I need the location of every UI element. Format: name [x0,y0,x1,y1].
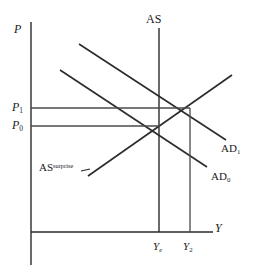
p0-sub: 0 [19,124,23,133]
ad1-curve-label: AD1 [221,143,240,154]
as-surprise-superscript: surprise [53,162,73,169]
ad1-sub: 1 [237,148,240,155]
p1-sub: 1 [19,106,23,115]
output-level-y2-label: Y2 [183,241,193,252]
ad1-base: AD [221,142,237,154]
price-level-p0-label: P0 [12,119,23,131]
as-surprise-pointer-icon [81,169,90,171]
diagram-canvas [0,0,260,278]
ye-sub: e [159,246,162,253]
y2-sub: 2 [189,246,192,253]
x-axis-label: Y [215,222,222,234]
economics-ad-as-diagram: P P1 P0 AS ASsurprise AD1 AD0 Y Ye Y2 [0,0,260,278]
output-level-ye-label: Ye [153,241,162,252]
y-axis-label: P [14,23,21,35]
as-surprise-curve-label: ASsurprise [39,162,73,173]
price-level-p1-label: P1 [12,101,23,113]
ad0-curve-label: AD0 [211,171,230,182]
as-surprise-base: AS [39,161,53,173]
ad0-curve [60,70,207,167]
ad0-base: AD [211,170,227,182]
as-curve-label: AS [146,13,161,25]
ad0-sub: 0 [227,176,230,183]
